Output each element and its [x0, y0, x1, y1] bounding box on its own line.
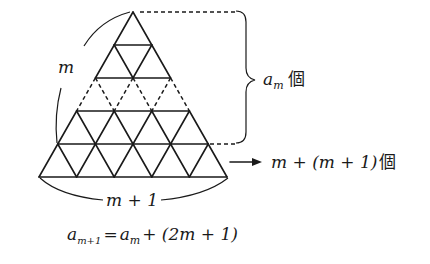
- brace-label: am個: [263, 69, 305, 92]
- formula-rhs-rest: + (2m + 1): [142, 224, 238, 244]
- base-arc-left: [40, 178, 103, 200]
- grid-slant-line: [189, 111, 208, 144]
- formula-lhs-var: a: [67, 224, 77, 244]
- grid-slant-line: [152, 45, 171, 78]
- curly-brace: [236, 11, 255, 143]
- grid-slant-line: [77, 111, 96, 144]
- base-label: m + 1: [106, 190, 158, 210]
- triangle-counting-diagram: m m + 1 am個 m + (m + 1)個 am+1=am+ (2m + …: [0, 0, 430, 264]
- triangular-grid: [39, 12, 227, 177]
- formula-rhs-sub: m: [130, 234, 140, 247]
- grid-slant-line: [152, 144, 171, 177]
- grid-slant-line: [189, 144, 208, 177]
- grid-slant-line: [77, 78, 96, 111]
- brace-label-sub: m: [273, 79, 283, 92]
- arrow-label: m + (m + 1)個: [271, 152, 396, 172]
- grid-slant-line: [95, 144, 114, 177]
- grid-slant-line: [171, 144, 190, 177]
- grid-slant-line: [95, 111, 114, 144]
- formula-rhs-var: a: [120, 224, 130, 244]
- grid-slant-line: [133, 78, 152, 111]
- grid-slant-line: [152, 111, 171, 144]
- grid-slant-line: [171, 111, 190, 144]
- grid-slant-line: [114, 78, 133, 111]
- grid-slant-line: [39, 144, 58, 177]
- grid-slant-line: [133, 45, 152, 78]
- brace-label-var: a: [263, 69, 273, 89]
- base-arc-right: [161, 178, 228, 200]
- side-label: m: [58, 57, 74, 77]
- recurrence-formula: am+1=am+ (2m + 1): [67, 224, 238, 247]
- grid-slant-line: [77, 144, 96, 177]
- side-arc-bottom: [56, 88, 61, 143]
- brace-label-unit: 個: [288, 69, 305, 89]
- arrow-label-expr: m + (m + 1): [271, 152, 377, 172]
- grid-slant-line: [58, 111, 77, 144]
- grid-slant-line: [133, 144, 152, 177]
- grid-slant-line: [133, 111, 152, 144]
- grid-slant-line: [95, 78, 114, 111]
- grid-slant-line: [114, 144, 133, 177]
- grid-slant-line: [152, 78, 171, 111]
- arrow-head-icon: [252, 158, 262, 166]
- grid-slant-line: [114, 111, 133, 144]
- grid-slant-line: [95, 45, 114, 78]
- grid-slant-line: [114, 45, 133, 78]
- grid-slant-line: [133, 12, 152, 45]
- formula-lhs-sub: m+1: [77, 235, 101, 246]
- grid-slant-line: [171, 78, 190, 111]
- formula-equals: =: [103, 224, 117, 244]
- grid-slant-line: [208, 144, 227, 177]
- grid-slant-line: [58, 144, 77, 177]
- arrow-label-unit: 個: [379, 152, 396, 172]
